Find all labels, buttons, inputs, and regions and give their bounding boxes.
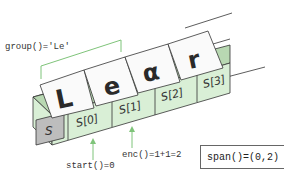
group-label: group()='Le' — [5, 42, 70, 52]
start-label: start()=0 — [66, 161, 115, 171]
span-label: span()=(0,2) — [207, 152, 279, 163]
start-arrow-icon — [90, 138, 96, 144]
end-arrow-icon — [129, 126, 135, 132]
end-label: enc()=1+1=2 — [122, 150, 181, 160]
string-box-label: S — [45, 124, 53, 138]
